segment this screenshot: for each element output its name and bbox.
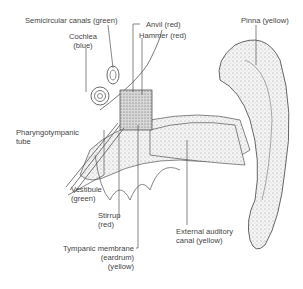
label-cochlea: Cochlea (blue): [69, 32, 97, 50]
label-text: Tympanic membrane: [52, 244, 134, 253]
label-tympanic-membrane: Tympanic membrane (eardrum) (yellow): [52, 244, 134, 271]
label-external-auditory-canal: External auditory canal (yellow): [176, 227, 233, 245]
label-text: canal (yellow): [176, 236, 233, 245]
label-pinna: Pinna (yellow): [241, 16, 289, 25]
label-text: Pharyngotympanic: [16, 128, 79, 137]
label-hammer: Hammer (red): [139, 31, 186, 40]
label-text: Cochlea: [69, 32, 97, 41]
label-text: (red): [98, 220, 120, 229]
label-text: Anvil (red): [146, 20, 181, 29]
label-text: (green): [71, 194, 102, 203]
label-text: tube: [16, 137, 79, 146]
label-text: (eardrum): [52, 253, 134, 262]
label-text: Pinna (yellow): [241, 16, 289, 25]
label-text: Stirrup: [98, 211, 120, 220]
label-text: (blue): [69, 41, 97, 50]
label-stirrup: Stirrup (red): [98, 211, 120, 229]
ear-anatomy-diagram: Semicircular canals (green) Cochlea (blu…: [0, 0, 303, 289]
label-text: External auditory: [176, 227, 233, 236]
label-text: (yellow): [52, 262, 134, 271]
label-text: Vestibule: [71, 185, 102, 194]
label-text: Semicircular canals (green): [25, 16, 117, 25]
label-vestibule: Vestibule (green): [71, 185, 102, 203]
label-anvil: Anvil (red): [146, 20, 181, 29]
label-pharyngotympanic-tube: Pharyngotympanic tube: [16, 128, 79, 146]
label-semicircular-canals: Semicircular canals (green): [25, 16, 117, 25]
label-text: Hammer (red): [139, 31, 186, 40]
